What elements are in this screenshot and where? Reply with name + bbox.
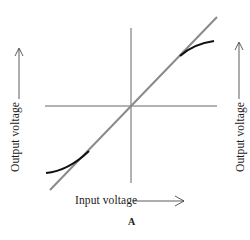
y-axis-label-left: Output voltage bbox=[9, 102, 21, 172]
upper-saturation-curve bbox=[180, 41, 214, 56]
x-axis-label: Input voltage bbox=[75, 194, 137, 206]
figure-caption: A bbox=[128, 216, 135, 227]
right-up-arrow-icon bbox=[235, 42, 243, 99]
linear-transfer-line bbox=[50, 17, 217, 190]
right-arrow-icon bbox=[133, 196, 184, 206]
left-up-arrow-icon bbox=[15, 48, 23, 99]
lower-saturation-curve bbox=[46, 151, 89, 173]
y-axis-label-right: Output voltage bbox=[234, 102, 246, 172]
